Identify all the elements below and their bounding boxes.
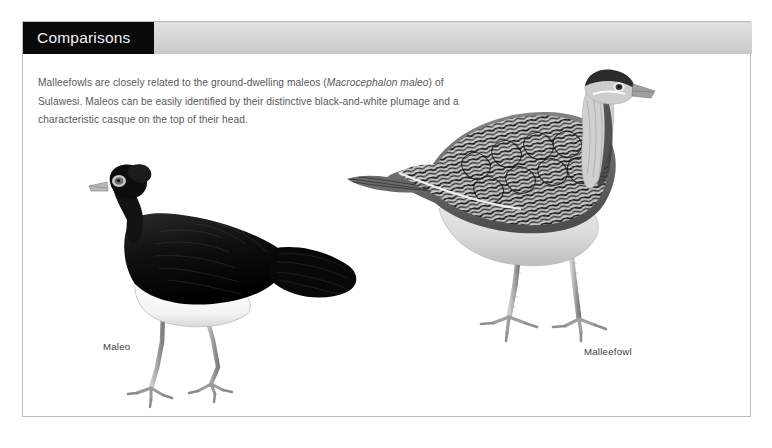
malleefowl-illustration xyxy=(343,67,683,357)
maleo-head xyxy=(89,164,151,198)
figures-area: Maleo Malleefowl xyxy=(23,22,752,416)
malleefowl-eye-pupil xyxy=(618,85,621,88)
maleo-body xyxy=(124,213,286,304)
maleo-legs xyxy=(128,312,232,407)
malleefowl-plumage-pattern xyxy=(397,115,608,225)
malleefowl-head xyxy=(585,70,655,104)
page-root: Comparisons Malleefowls are closely rela… xyxy=(0,0,772,448)
figure-caption-malleefowl: Malleefowl xyxy=(584,346,632,357)
figure-caption-maleo: Maleo xyxy=(103,341,130,352)
maleo-eye-pupil xyxy=(117,179,120,182)
content-panel: Comparisons Malleefowls are closely rela… xyxy=(22,21,751,417)
maleo-illustration xyxy=(63,162,363,412)
